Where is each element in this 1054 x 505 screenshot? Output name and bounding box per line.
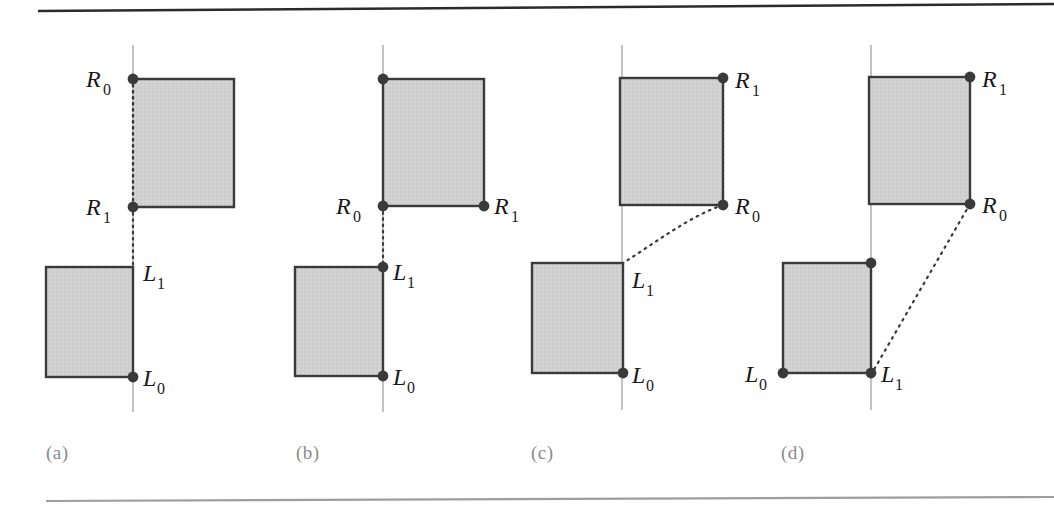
panel-d-label-L1: L 1 <box>880 361 903 393</box>
panel-d-label-L1-sub: 1 <box>895 376 903 393</box>
panel-d-vertex-L1 <box>866 368 877 379</box>
panel-a-label-R0-base: R <box>85 66 101 92</box>
panel-b: R 0 R 1 L 1 L 0 <box>295 45 519 412</box>
panel-b-label-R0-base: R <box>335 193 351 219</box>
panel-c-label-R1: R 1 <box>734 67 760 99</box>
panel-b-vertex-upper-left-top <box>378 74 389 85</box>
panel-a-label-L0-base: L <box>142 365 156 391</box>
panel-c-vertex-R1 <box>718 73 729 84</box>
panel-d-label-L1-base: L <box>880 361 894 387</box>
panel-b-vertex-L0 <box>378 371 389 382</box>
panel-d-vertex-R0 <box>965 199 976 210</box>
panel-b-label-R1-base: R <box>493 193 509 219</box>
panel-b-lower-rectangle <box>295 267 383 376</box>
panel-d-connector <box>872 204 970 373</box>
panel-a-label-L1-sub: 1 <box>157 275 165 292</box>
panel-b-label-R0-sub: 0 <box>353 208 361 225</box>
panel-c-label-L1-sub: 1 <box>646 282 654 299</box>
panel-a-upper-rectangle <box>133 79 234 207</box>
panel-d: R 1 R 0 L 0 L 1 <box>744 45 1007 410</box>
panel-c-vertex-R0 <box>718 200 729 211</box>
panel-c-label-L1: L 1 <box>631 267 654 299</box>
panel-c-label-R0-sub: 0 <box>752 208 760 225</box>
panel-c-label-R0: R 0 <box>734 193 760 225</box>
panel-a-label-L1: L 1 <box>142 260 165 292</box>
panel-d-label-R1-sub: 1 <box>999 81 1007 98</box>
panel-b-label-L1-base: L <box>392 259 406 285</box>
panel-c-vertex-L0 <box>618 368 629 379</box>
panel-d-label-L0-sub: 0 <box>759 376 767 393</box>
bottom-rule <box>46 497 1054 501</box>
panel-b-vertex-R0 <box>378 201 389 212</box>
panel-b-label-R1: R 1 <box>493 193 519 225</box>
panel-a-vertex-R0 <box>128 74 139 85</box>
panel-b-label-L0-sub: 0 <box>407 379 415 396</box>
top-rule <box>38 4 1054 11</box>
panel-b-vertex-R1 <box>479 201 490 212</box>
panel-a-label-L1-base: L <box>142 260 156 286</box>
panel-c-connector <box>623 205 723 263</box>
panel-d-label-R1-base: R <box>981 66 997 92</box>
panel-a-label-R1: R 1 <box>85 194 111 226</box>
figure-container: R 0 R 1 L 1 L 0 R <box>0 0 1054 505</box>
panel-b-label-L0-base: L <box>392 364 406 390</box>
panel-a: R 0 R 1 L 1 L 0 <box>46 45 234 412</box>
panel-a-label-R1-base: R <box>85 194 101 220</box>
panel-d-vertex-L0 <box>778 368 789 379</box>
panel-c-upper-rectangle <box>620 78 723 205</box>
panel-c-label-R1-base: R <box>734 67 750 93</box>
panel-a-label-L0-sub: 0 <box>157 380 165 397</box>
panel-a-vertex-R1 <box>128 202 139 213</box>
panel-caption-a: (a) <box>46 442 69 464</box>
panel-d-label-R0-sub: 0 <box>999 207 1007 224</box>
panel-d-lower-rectangle <box>783 263 871 373</box>
panel-a-label-R0-sub: 0 <box>103 81 111 98</box>
panel-a-vertex-L0 <box>128 372 139 383</box>
panel-b-label-R1-sub: 1 <box>511 208 519 225</box>
panel-a-label-R0: R 0 <box>85 66 111 98</box>
figure-svg: R 0 R 1 L 1 L 0 R <box>0 0 1054 505</box>
panel-d-label-R1: R 1 <box>981 66 1007 98</box>
panel-d-label-L0-base: L <box>744 361 758 387</box>
panel-d-vertex-R1 <box>965 72 976 83</box>
panel-a-lower-rectangle <box>46 267 133 377</box>
panel-b-upper-rectangle <box>383 79 484 206</box>
panel-c-label-L1-base: L <box>631 267 645 293</box>
panel-caption-d: (d) <box>781 442 805 464</box>
panel-b-vertex-L1 <box>378 262 389 273</box>
panel-caption-b: (b) <box>296 442 320 464</box>
panel-b-label-L0: L 0 <box>392 364 415 396</box>
panel-a-label-L0: L 0 <box>142 365 165 397</box>
panel-c-label-R0-base: R <box>734 193 750 219</box>
panel-c-lower-rectangle <box>532 263 623 373</box>
panel-c: R 1 R 0 L 1 L 0 <box>532 45 760 410</box>
panel-c-label-L0: L 0 <box>631 362 654 394</box>
panel-d-label-R0-base: R <box>981 192 997 218</box>
panel-c-label-L0-sub: 0 <box>646 377 654 394</box>
panel-b-label-L1-sub: 1 <box>407 274 415 291</box>
panel-c-label-R1-sub: 1 <box>752 82 760 99</box>
panel-d-vertex-lower-right-top <box>866 258 877 269</box>
panel-b-label-R0: R 0 <box>335 193 361 225</box>
panel-c-label-L0-base: L <box>631 362 645 388</box>
panel-d-label-L0: L 0 <box>744 361 767 393</box>
panel-d-label-R0: R 0 <box>981 192 1007 224</box>
panel-caption-c: (c) <box>531 442 554 464</box>
panel-b-label-L1: L 1 <box>392 259 415 291</box>
panel-d-upper-rectangle <box>869 77 970 204</box>
panel-a-label-R1-sub: 1 <box>103 209 111 226</box>
